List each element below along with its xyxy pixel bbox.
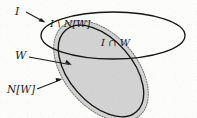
label-set-w: W <box>15 50 26 61</box>
diagram-canvas <box>0 0 197 118</box>
leader-arrowhead-i <box>39 18 46 23</box>
leader-arrowhead-nw <box>56 78 63 82</box>
label-set-i: I <box>15 6 19 17</box>
leader-nw <box>37 78 63 89</box>
label-difference: I \ N[W] <box>50 19 91 29</box>
set-diagram-figure: I W N[W] I \ N[W] I ∩ W <box>0 0 197 118</box>
label-intersection: I ∩ W <box>101 38 130 48</box>
leader-i <box>26 12 46 23</box>
label-neighbourhood: N[W] <box>7 84 35 95</box>
